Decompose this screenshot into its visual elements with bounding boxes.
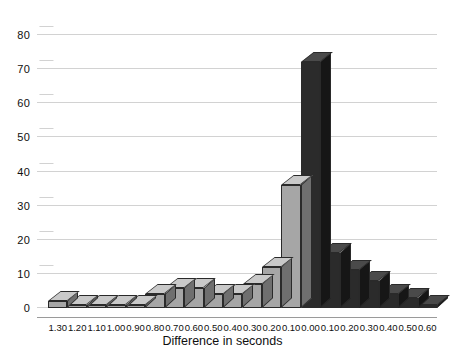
y-axis-tick-label: 30 xyxy=(17,200,30,212)
x-axis-tick-label: 1.20 xyxy=(68,322,87,333)
x-axis-tick-label: 0.20 xyxy=(262,322,281,333)
x-axis-tick-label: 0.40 xyxy=(379,322,398,333)
bar xyxy=(48,301,67,308)
x-axis-tick-label: 0.40 xyxy=(224,322,243,333)
y-axis-tick-label: 80 xyxy=(17,29,30,41)
y-axis-tick-label: 0 xyxy=(24,302,30,314)
y-axis-tick-label: 20 xyxy=(17,234,30,246)
y-axis-tick-label: 50 xyxy=(17,131,30,143)
x-axis-title: Difference in seconds xyxy=(0,334,445,348)
plot-area: 01020304050607080 xyxy=(37,18,437,318)
x-axis-tick-label: 0.30 xyxy=(360,322,379,333)
x-axis-tick-labels: 1.301.201.101.000.900.800.700.600.500.40… xyxy=(48,322,437,334)
x-axis-tick-label: 0.20 xyxy=(340,322,359,333)
x-axis-tick-label: 0.60 xyxy=(185,322,204,333)
bar-front-face xyxy=(67,305,86,308)
axis-baseline xyxy=(37,317,437,318)
y-axis-tick-label: 10 xyxy=(17,268,30,280)
x-axis-tick-label: 1.00 xyxy=(107,322,126,333)
bar-side-face xyxy=(320,52,331,308)
x-axis-tick-label: 0.50 xyxy=(399,322,418,333)
x-axis-tick-label: 0.50 xyxy=(204,322,223,333)
bar-series xyxy=(48,18,437,308)
x-axis-tick-label: 0.90 xyxy=(126,322,145,333)
x-axis-tick-label: 0.80 xyxy=(146,322,165,333)
bar-front-face xyxy=(48,301,67,308)
x-axis-tick-label: 0.00 xyxy=(301,322,320,333)
bar-side-face xyxy=(301,175,312,308)
x-axis-tick-label: 0.10 xyxy=(282,322,301,333)
bar-side-face xyxy=(340,244,351,308)
x-axis-tick-label: 1.10 xyxy=(87,322,106,333)
y-axis-tick-label: 40 xyxy=(17,166,30,178)
x-axis-tick-label: 0.10 xyxy=(321,322,340,333)
y-axis-tick-label: 60 xyxy=(17,97,30,109)
x-axis-tick-label: 0.60 xyxy=(418,322,437,333)
x-axis-tick-label: 1.30 xyxy=(48,322,67,333)
bar xyxy=(67,305,86,308)
x-axis-tick-label: 0.70 xyxy=(165,322,184,333)
x-axis-tick-label: 0.30 xyxy=(243,322,262,333)
y-axis-tick-label: 70 xyxy=(17,63,30,75)
